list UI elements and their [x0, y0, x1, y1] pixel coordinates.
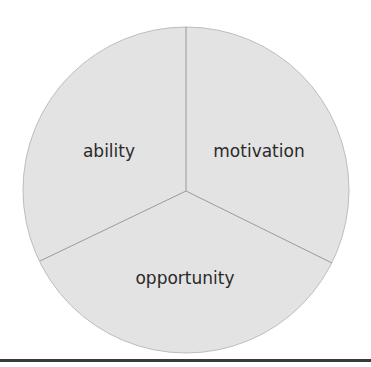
segment-label-ability: ability: [83, 141, 135, 161]
segment-label-motivation: motivation: [213, 141, 304, 161]
diagram-canvas: ability motivation opportunity: [0, 0, 371, 367]
baseline-rule: [0, 359, 371, 362]
segment-label-opportunity: opportunity: [135, 268, 234, 288]
